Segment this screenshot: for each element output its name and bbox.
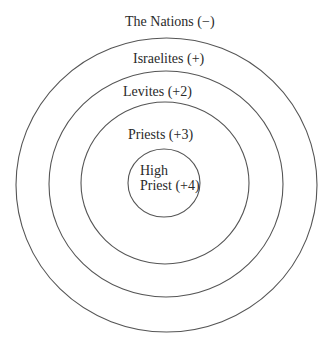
label-priests: Priests (+3): [128, 127, 193, 143]
label-the-nations: The Nations (−): [125, 14, 215, 30]
label-israelites: Israelites (+): [133, 51, 204, 67]
label-high-priest-line1: High: [140, 163, 168, 179]
label-high-priest-line2: Priest (+4): [140, 178, 200, 194]
label-levites: Levites (+2): [123, 84, 192, 100]
